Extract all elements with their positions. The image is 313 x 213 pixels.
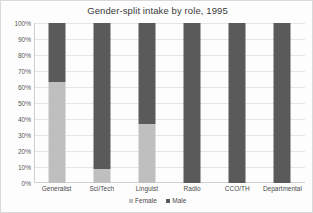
bar-column[interactable] <box>34 23 79 183</box>
legend-label: Male <box>172 197 186 204</box>
bar-column[interactable] <box>124 23 169 183</box>
y-axis-tick-label: 20% <box>1 148 31 155</box>
bar-stack[interactable] <box>184 23 201 183</box>
legend-swatch-female-icon <box>129 199 133 203</box>
bar-stack[interactable] <box>138 23 155 183</box>
y-axis: 0%10%20%30%40%50%60%70%80%90%100% <box>1 23 31 183</box>
plot-area <box>34 23 305 183</box>
bar-column[interactable] <box>79 23 124 183</box>
legend-swatch-male-icon <box>166 199 170 203</box>
bars-layer <box>34 23 305 183</box>
y-axis-tick-label: 0% <box>1 180 31 187</box>
y-axis-tick-label: 10% <box>1 164 31 171</box>
y-axis-tick-label: 40% <box>1 116 31 123</box>
bar-segment-male[interactable] <box>138 23 155 124</box>
legend-label: Female <box>135 197 157 204</box>
x-axis-tick-label: Linguist <box>136 185 158 192</box>
bar-segment-male[interactable] <box>274 23 291 183</box>
bar-segment-male[interactable] <box>48 23 65 82</box>
y-axis-tick-label: 100% <box>1 20 31 27</box>
bar-column[interactable] <box>215 23 260 183</box>
bar-column[interactable] <box>260 23 305 183</box>
y-axis-tick-label: 30% <box>1 132 31 139</box>
bar-segment-male[interactable] <box>93 23 110 169</box>
legend-item[interactable]: Male <box>166 197 187 204</box>
bar-segment-male[interactable] <box>229 23 246 183</box>
x-axis-tick-label: Departmental <box>263 185 302 192</box>
chart-container: Gender-split intake by role, 1995 0%10%2… <box>0 0 313 213</box>
bar-column[interactable] <box>170 23 215 183</box>
chart-legend: FemaleMale <box>1 197 313 204</box>
y-axis-tick-label: 50% <box>1 100 31 107</box>
y-axis-tick-label: 70% <box>1 68 31 75</box>
bar-stack[interactable] <box>93 23 110 183</box>
bar-segment-female[interactable] <box>138 124 155 183</box>
bar-stack[interactable] <box>48 23 65 183</box>
x-axis-tick-label: Sci/Tech <box>89 185 114 192</box>
chart-title: Gender-split intake by role, 1995 <box>1 5 313 16</box>
bar-segment-male[interactable] <box>184 23 201 183</box>
x-axis-tick-label: CCO/TH <box>225 185 250 192</box>
legend-item[interactable]: Female <box>129 197 157 204</box>
x-axis-tick-label: Generalist <box>42 185 72 192</box>
y-axis-tick-label: 90% <box>1 36 31 43</box>
bar-stack[interactable] <box>274 23 291 183</box>
x-axis-tick-label: Radio <box>184 185 201 192</box>
bar-segment-female[interactable] <box>48 82 65 183</box>
bar-stack[interactable] <box>229 23 246 183</box>
bar-segment-female[interactable] <box>93 169 110 183</box>
y-axis-tick-label: 80% <box>1 52 31 59</box>
y-axis-tick-label: 60% <box>1 84 31 91</box>
x-axis: GeneralistSci/TechLinguistRadioCCO/THDep… <box>34 185 305 197</box>
